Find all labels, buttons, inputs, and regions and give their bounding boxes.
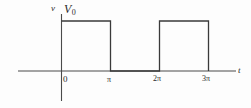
- x-axis-label: t: [238, 66, 241, 75]
- amplitude-subscript: 0: [71, 8, 76, 17]
- y-axis-label: v: [51, 4, 55, 13]
- x-tick-label-0: 0: [63, 74, 68, 84]
- amplitude-label: V0: [64, 3, 76, 17]
- waveform-trace: [62, 21, 209, 71]
- plot-canvas: [0, 0, 251, 108]
- square-wave-figure: v V0 t 0 π 2π 3π: [0, 0, 251, 108]
- x-tick-label-2pi: 2π: [153, 74, 161, 83]
- x-tick-label-pi: π: [107, 75, 111, 84]
- x-tick-label-3pi: 3π: [202, 74, 210, 83]
